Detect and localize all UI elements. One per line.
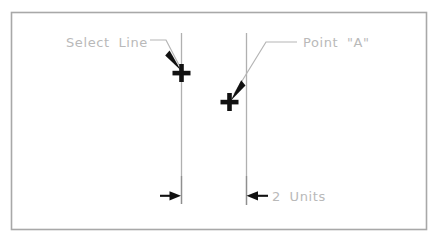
cross-marker-select-line: [173, 64, 191, 82]
label-dimension-2-units: 2 Units: [272, 189, 326, 204]
dimension-arrow-left: [160, 191, 181, 200]
diagram-canvas: Select Line Point "A" 2 Units: [0, 0, 438, 242]
cross-marker-point-a: [221, 93, 239, 111]
leader-arrowhead-point-a: [231, 80, 246, 101]
dimension-arrow-right: [247, 191, 269, 200]
cad-drawing: Select Line Point "A" 2 Units: [0, 0, 438, 242]
label-point-a: Point "A": [303, 35, 370, 50]
label-select-line: Select Line: [66, 35, 148, 50]
